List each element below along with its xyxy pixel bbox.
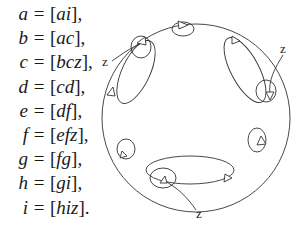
arrow-lower-right bbox=[257, 136, 266, 145]
z-label-right: z bbox=[280, 41, 286, 56]
z-bottom-leader bbox=[164, 181, 196, 210]
arrow-bottom-small bbox=[160, 176, 167, 183]
z-left-leader bbox=[112, 44, 140, 61]
arrow-right-upper bbox=[232, 36, 240, 44]
loop-right-large bbox=[216, 32, 275, 109]
arrow-left bbox=[120, 151, 127, 158]
arrow-left-upper bbox=[107, 87, 115, 96]
z-label-left: z bbox=[102, 54, 108, 69]
z-label-bottom: z bbox=[196, 206, 202, 221]
z-right-leader bbox=[270, 55, 283, 95]
loop-bottom-large bbox=[146, 156, 234, 184]
cycle-diagram: z z z bbox=[0, 0, 297, 226]
